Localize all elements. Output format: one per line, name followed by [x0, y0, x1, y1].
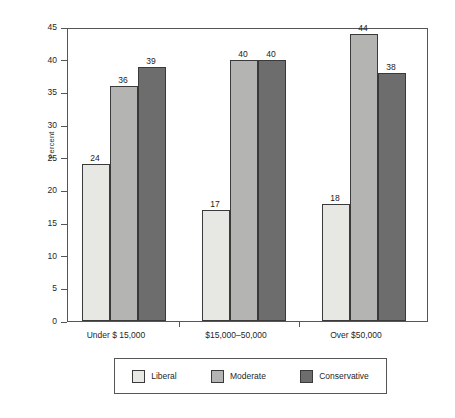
bar-value-g2-moderate: 40	[229, 49, 257, 59]
bar-over-50000-liberal[interactable]	[322, 204, 350, 321]
y-tick-label: 10	[34, 251, 57, 262]
bar-value-g1-moderate: 36	[109, 75, 137, 85]
x-category-label-over-50000: Over $50,000	[306, 330, 406, 340]
legend-swatch-icon	[300, 370, 313, 383]
bar-under-15000-moderate[interactable]	[110, 86, 138, 321]
x-category-label-15000-50000: $15,000–50,000	[186, 330, 286, 340]
bar-value-g1-liberal: 24	[81, 153, 109, 163]
bar-over-50000-moderate[interactable]	[350, 34, 378, 321]
legend: Liberal Moderate Conservative	[114, 358, 387, 394]
y-tick-label: 0	[34, 316, 57, 327]
y-tick-label: 40	[34, 55, 57, 66]
legend-label: Moderate	[230, 371, 266, 381]
y-tick-label: 25	[34, 153, 57, 164]
bar-chart-figure: Percent 45 40 35 30 25 20 15	[0, 0, 455, 418]
legend-swatch-icon	[211, 370, 224, 383]
y-tick-label: 30	[34, 120, 57, 131]
bar-under-15000-conservative[interactable]	[138, 67, 166, 321]
bar-15000-50000-liberal[interactable]	[202, 210, 230, 321]
bar-over-50000-conservative[interactable]	[378, 73, 406, 321]
y-tick-label: 45	[34, 22, 57, 33]
y-tick-label: 15	[34, 218, 57, 229]
legend-item-liberal[interactable]: Liberal	[132, 370, 177, 383]
x-category-label-under-15000: Under $ 15,000	[66, 330, 166, 340]
legend-swatch-icon	[132, 370, 145, 383]
y-tick-label: 35	[34, 87, 57, 98]
y-tick-label: 20	[34, 185, 57, 196]
bar-value-g3-conservative: 38	[377, 62, 405, 72]
bar-value-g1-conservative: 39	[137, 56, 165, 66]
bar-value-g2-liberal: 17	[201, 199, 229, 209]
legend-item-moderate[interactable]: Moderate	[211, 370, 266, 383]
y-tick-label: 5	[34, 283, 57, 294]
bar-under-15000-liberal[interactable]	[82, 164, 110, 321]
x-tick-separator-2	[299, 322, 300, 327]
plot-area	[67, 28, 428, 322]
bar-15000-50000-moderate[interactable]	[230, 60, 258, 321]
legend-label: Liberal	[151, 371, 177, 381]
legend-item-conservative[interactable]: Conservative	[300, 370, 369, 383]
x-tick-separator-1	[179, 322, 180, 327]
bar-value-g3-liberal: 18	[321, 193, 349, 203]
bar-15000-50000-conservative[interactable]	[258, 60, 286, 321]
bar-value-g2-conservative: 40	[257, 49, 285, 59]
bar-value-g3-moderate: 44	[349, 23, 377, 33]
y-axis-title: Percent	[47, 105, 61, 185]
legend-label: Conservative	[319, 371, 369, 381]
